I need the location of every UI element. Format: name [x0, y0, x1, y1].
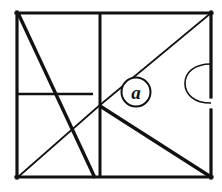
- line-figure-svg: a: [0, 0, 222, 192]
- label-a-text: a: [131, 82, 141, 103]
- figure-canvas: a: [0, 0, 222, 192]
- circled-label-a: a: [122, 78, 151, 107]
